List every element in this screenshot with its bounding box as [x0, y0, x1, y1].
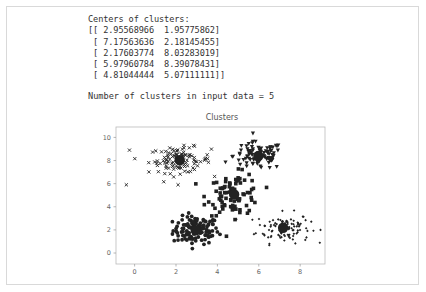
- data-point: [233, 199, 237, 203]
- data-point: [186, 170, 189, 173]
- data-point: [193, 168, 196, 171]
- data-point: [211, 222, 215, 226]
- data-point: [163, 156, 166, 159]
- data-point: [294, 242, 297, 245]
- data-point: [268, 244, 271, 247]
- data-point: [290, 223, 293, 226]
- data-point: [252, 187, 256, 191]
- data-point: [190, 214, 194, 218]
- data-point: [213, 175, 216, 178]
- data-point: [248, 191, 252, 195]
- data-point: [231, 204, 235, 208]
- data-point: [202, 195, 206, 199]
- data-point: [191, 237, 195, 241]
- data-point: [293, 233, 296, 236]
- data-point: [180, 226, 184, 230]
- data-point: [264, 225, 267, 228]
- data-point: [277, 218, 280, 221]
- data-point: [176, 221, 180, 225]
- data-point: [310, 220, 313, 223]
- data-point: [169, 172, 172, 175]
- data-point: [218, 210, 222, 214]
- cluster-center-marker: [278, 223, 288, 233]
- data-point: [250, 198, 254, 202]
- data-point: [196, 164, 199, 167]
- data-point: [176, 238, 180, 242]
- data-point: [292, 235, 295, 238]
- data-point: [195, 219, 199, 223]
- y-tick-label: 10: [103, 134, 111, 142]
- data-point: [275, 165, 279, 169]
- data-point: [304, 219, 307, 222]
- data-point: [224, 177, 228, 181]
- data-point: [237, 167, 241, 171]
- data-point: [238, 177, 242, 181]
- data-point: [190, 247, 194, 251]
- data-point: [187, 226, 191, 230]
- y-axis-ticks: 0246810: [103, 134, 116, 258]
- data-point: [212, 181, 216, 185]
- data-point: [312, 229, 315, 232]
- data-point: [247, 209, 251, 213]
- data-point: [185, 215, 189, 219]
- data-point: [133, 157, 136, 160]
- data-point: [125, 183, 128, 186]
- data-point: [259, 166, 263, 170]
- x-tick-label: 0: [133, 268, 137, 276]
- data-point: [209, 234, 213, 238]
- data-point: [223, 191, 227, 195]
- data-point: [268, 166, 272, 170]
- data-point: [214, 189, 218, 193]
- data-point: [203, 238, 207, 242]
- data-point: [238, 163, 242, 167]
- data-point: [305, 227, 308, 230]
- data-point: [281, 210, 284, 213]
- data-point: [187, 231, 191, 235]
- data-point: [170, 220, 174, 224]
- data-point: [211, 218, 215, 222]
- data-point: [223, 204, 227, 208]
- data-point: [269, 225, 272, 228]
- data-point: [207, 161, 210, 164]
- data-point: [253, 201, 257, 205]
- data-point: [292, 219, 295, 222]
- data-point: [210, 214, 214, 218]
- data-point: [213, 206, 217, 210]
- data-point: [217, 197, 221, 201]
- data-point: [203, 203, 207, 207]
- data-point: [194, 182, 198, 186]
- data-point: [237, 159, 241, 163]
- data-point: [181, 213, 185, 217]
- data-point: [268, 229, 271, 232]
- cluster-center-marker: [191, 225, 201, 235]
- data-point: [283, 239, 286, 242]
- data-point: [181, 234, 185, 238]
- data-point: [224, 197, 228, 201]
- y-tick-label: 0: [107, 249, 111, 257]
- data-point: [293, 225, 296, 228]
- data-point: [267, 236, 270, 239]
- data-point: [238, 197, 242, 201]
- data-point: [174, 227, 178, 231]
- data-point: [202, 219, 206, 223]
- data-point: [240, 168, 244, 172]
- data-point: [239, 149, 243, 153]
- data-point: [290, 218, 293, 221]
- data-point: [215, 181, 219, 185]
- data-point: [206, 223, 210, 227]
- scatter-points: [125, 132, 322, 251]
- data-point: [251, 162, 255, 166]
- data-point: [183, 170, 186, 173]
- data-point: [214, 214, 218, 218]
- data-point: [265, 186, 269, 190]
- data-point: [176, 234, 180, 238]
- data-point: [276, 149, 280, 153]
- data-point: [187, 211, 191, 215]
- data-point: [211, 203, 215, 207]
- cluster-center-marker: [174, 155, 184, 165]
- data-point: [245, 165, 249, 169]
- data-point: [319, 229, 322, 232]
- data-point: [305, 236, 308, 239]
- data-point: [172, 175, 175, 178]
- data-point: [215, 230, 219, 234]
